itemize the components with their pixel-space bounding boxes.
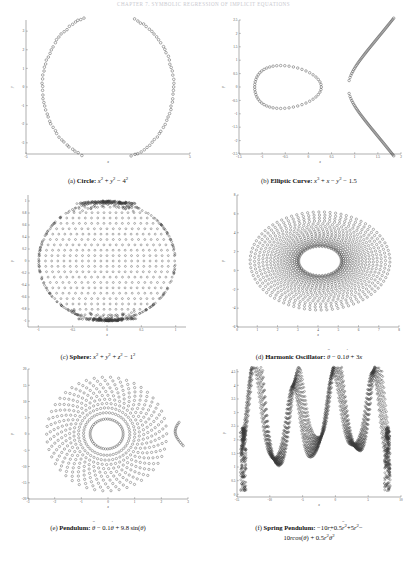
svg-text:-1.5: -1.5: [232, 125, 238, 129]
svg-text:0: 0: [236, 329, 238, 333]
svg-text:0: 0: [25, 259, 27, 263]
svg-text:7: 7: [378, 329, 380, 333]
svg-text:10: 10: [399, 499, 403, 503]
caption-f: (f) Spring Pendulum: −10r+0.5¨r2+5r2−10r…: [211, 521, 407, 541]
svg-text:3.5: 3.5: [231, 398, 235, 402]
svg-text:5: 5: [337, 329, 339, 333]
plot-a-circle: -55-3-2-10123xy: [0, 14, 196, 174]
svg-text:-1: -1: [261, 155, 264, 159]
svg-text:8: 8: [398, 329, 400, 333]
plot-a-svg: -55-3-2-10123xy: [0, 14, 196, 174]
svg-text:0: 0: [308, 155, 310, 159]
svg-text:-15: -15: [22, 481, 27, 485]
svg-text:5: 5: [189, 155, 191, 159]
svg-text:y: y: [222, 432, 226, 435]
svg-text:x: x: [316, 333, 319, 337]
svg-text:-5: -5: [301, 499, 304, 503]
svg-text:6: 6: [358, 329, 360, 333]
svg-text:-4: -4: [233, 307, 236, 311]
svg-text:-2: -2: [235, 139, 238, 143]
svg-text:0.5: 0.5: [139, 329, 143, 333]
svg-text:0.5: 0.5: [329, 155, 334, 159]
svg-text:-1: -1: [235, 112, 238, 116]
svg-text:1: 1: [256, 329, 258, 333]
svg-text:1.5: 1.5: [231, 452, 235, 456]
svg-text:-2: -2: [21, 122, 24, 126]
svg-text:-0.5: -0.5: [70, 329, 76, 333]
svg-text:y: y: [10, 433, 14, 436]
caption-b: (b) Elliptic Curve: x3 + x − y2 − 1.5: [211, 174, 407, 185]
svg-text:-2: -2: [233, 288, 236, 292]
svg-text:-20: -20: [22, 498, 27, 502]
svg-text:3: 3: [187, 501, 189, 505]
svg-text:-0.2: -0.2: [21, 271, 27, 275]
svg-text:1: 1: [134, 501, 136, 505]
caption-e: (e) Pendulum: ¨θ − 0.1̇θ + 9.8 sin(θ): [0, 521, 196, 532]
svg-text:10: 10: [23, 400, 27, 404]
svg-text:-10: -10: [22, 465, 27, 469]
panel-a: -55-3-2-10123xy (a) Circle: x2 + y2 − 42: [0, 14, 196, 185]
svg-text:2: 2: [277, 329, 279, 333]
svg-text:-5: -5: [25, 155, 28, 159]
plot-b-svg: -1.5-1-0.500.511.52-2.5-2-1.5-1-0.500.51…: [211, 14, 407, 174]
svg-text:3: 3: [23, 29, 25, 33]
svg-text:0: 0: [25, 433, 27, 437]
svg-text:0.5: 0.5: [231, 479, 235, 483]
svg-text:4: 4: [234, 384, 236, 388]
svg-text:-5: -5: [24, 449, 27, 453]
plot-e-pendulum: -3-2-10123-20-15-10-505101520xy: [0, 361, 196, 521]
svg-text:0.8: 0.8: [22, 211, 26, 215]
svg-text:3: 3: [297, 329, 299, 333]
plot-f-svg: -15-10-5051000.511.522.533.544.5xy: [211, 361, 407, 521]
plot-c-sphere: -1-0.500.51-1-0.8-0.6-0.4-0.200.20.40.60…: [0, 185, 196, 350]
svg-text:-0.5: -0.5: [232, 99, 238, 103]
svg-text:-10: -10: [268, 499, 273, 503]
running-head: CHAPTER 7. SYMBOLIC REGRESSION OF IMPLIC…: [0, 1, 407, 7]
svg-text:2.5: 2.5: [233, 18, 238, 22]
svg-text:6: 6: [234, 212, 236, 216]
plot-e-svg: -3-2-10123-20-15-10-505101520xy: [0, 361, 196, 521]
plot-d-svg: 012345678-6-4-202468xy: [211, 185, 407, 350]
svg-text:5: 5: [367, 499, 369, 503]
svg-text:-3: -3: [27, 501, 30, 505]
plot-b-elliptic-curve: -1.5-1-0.500.511.52-2.5-2-1.5-1-0.500.51…: [211, 14, 407, 174]
svg-text:2: 2: [234, 250, 236, 254]
plot-f-spring-pendulum: -15-10-5051000.511.522.533.544.5xy: [211, 361, 407, 521]
svg-text:5: 5: [25, 416, 27, 420]
panel-f: -15-10-5051000.511.522.533.544.5xy (f) S…: [211, 361, 407, 541]
svg-text:1: 1: [236, 58, 238, 62]
svg-text:2: 2: [236, 32, 238, 36]
svg-text:0.2: 0.2: [22, 247, 26, 251]
svg-text:y: y: [10, 260, 14, 263]
svg-text:20: 20: [23, 368, 27, 372]
svg-text:3: 3: [234, 411, 236, 415]
svg-text:2: 2: [23, 48, 25, 52]
caption-a: (a) Circle: x2 + y2 − 42: [0, 174, 196, 185]
svg-text:2: 2: [160, 501, 162, 505]
svg-text:1.5: 1.5: [233, 45, 238, 49]
svg-text:2.5: 2.5: [231, 425, 235, 429]
panel-e: -3-2-10123-20-15-10-505101520xy (e) Pend…: [0, 361, 196, 541]
svg-text:0: 0: [234, 269, 236, 273]
svg-text:1: 1: [354, 155, 356, 159]
svg-text:2: 2: [234, 438, 236, 442]
svg-text:-15: -15: [235, 499, 240, 503]
svg-text:y: y: [221, 86, 225, 89]
svg-text:0.5: 0.5: [233, 72, 238, 76]
svg-text:0: 0: [234, 493, 236, 497]
svg-text:15: 15: [23, 384, 27, 388]
svg-text:x: x: [317, 504, 320, 508]
svg-text:-3: -3: [21, 141, 24, 145]
svg-text:-0.6: -0.6: [21, 295, 27, 299]
svg-text:x: x: [106, 160, 109, 164]
svg-text:1.5: 1.5: [376, 155, 381, 159]
panel-c: -1-0.500.51-1-0.8-0.6-0.4-0.200.20.40.60…: [0, 185, 196, 361]
svg-text:-1: -1: [80, 501, 83, 505]
svg-text:8: 8: [234, 193, 236, 197]
svg-text:0: 0: [106, 329, 108, 333]
svg-text:x: x: [105, 333, 108, 337]
svg-text:y: y: [221, 260, 225, 263]
svg-text:0: 0: [236, 85, 238, 89]
plot-d-harmonic-oscillator: 012345678-6-4-202468xy: [211, 185, 407, 350]
svg-text:0: 0: [23, 85, 25, 89]
